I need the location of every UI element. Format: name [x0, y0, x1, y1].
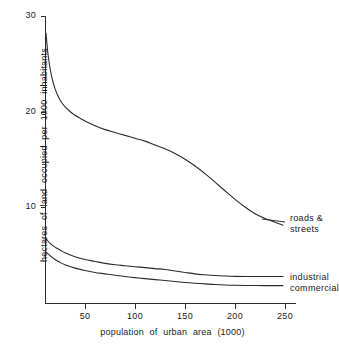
y-tick-label: 30 — [8, 10, 36, 20]
y-tick-label: 10 — [8, 201, 36, 211]
x-tick-label: 250 — [265, 311, 305, 321]
series-label-commercial: commercial — [290, 283, 339, 294]
y-tick-label: 20 — [8, 106, 36, 116]
series-label-roads-streets: roads & streets — [290, 213, 323, 235]
x-tick-label: 150 — [165, 311, 205, 321]
x-tick-label: 100 — [115, 311, 155, 321]
series-line-commercial — [46, 252, 283, 286]
x-tick-label: 200 — [215, 311, 255, 321]
x-axis-ticks — [86, 304, 286, 309]
series-label-industrial: industrial — [290, 272, 329, 283]
x-axis-title: population of urban area (1000) — [45, 327, 300, 337]
series-line-roads-streets — [46, 33, 283, 225]
series-lines — [46, 33, 283, 285]
axes-group — [46, 16, 297, 304]
y-axis-title: hectares of land occupied per 1000 inhab… — [39, 25, 49, 285]
x-tick-label: 50 — [65, 311, 105, 321]
series-line-industrial — [46, 239, 283, 277]
